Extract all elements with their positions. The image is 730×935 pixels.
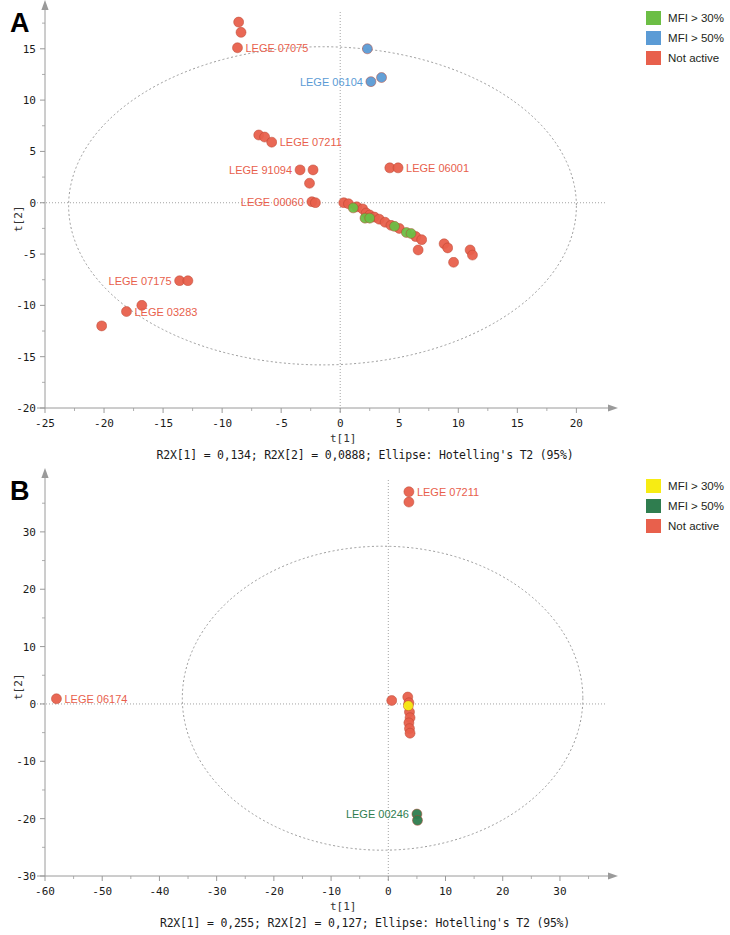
svg-text:15: 15 bbox=[511, 417, 524, 430]
svg-text:30: 30 bbox=[553, 885, 566, 898]
legend-label-mfi50: MFI > 50% bbox=[668, 499, 724, 513]
data-point bbox=[417, 235, 427, 245]
svg-text:0: 0 bbox=[337, 417, 344, 430]
svg-text:30: 30 bbox=[23, 526, 36, 539]
data-point bbox=[236, 27, 246, 37]
svg-text:0: 0 bbox=[29, 698, 36, 711]
data-point bbox=[365, 213, 375, 223]
svg-text:-25: -25 bbox=[35, 417, 55, 430]
svg-text:-15: -15 bbox=[16, 351, 36, 364]
panel-b-legend: MFI > 30% MFI > 50% Not active bbox=[646, 478, 724, 533]
point-label: LEGE 03283 bbox=[134, 306, 197, 318]
data-point bbox=[404, 497, 414, 507]
legend-label-mfi50: MFI > 50% bbox=[668, 31, 724, 45]
point-label: LEGE 06001 bbox=[406, 162, 469, 174]
point-label: LEGE 06174 bbox=[64, 693, 127, 705]
svg-text:5: 5 bbox=[396, 417, 403, 430]
legend-swatch-notactive bbox=[646, 519, 661, 533]
svg-text:20: 20 bbox=[496, 885, 509, 898]
svg-text:0: 0 bbox=[29, 197, 36, 210]
panel-a: A -25-20-15-10-505101520-20-15-10-505101… bbox=[0, 0, 730, 467]
panel-b-caption: R2X[1] = 0,255; R2X[2] = 0,127; Ellipse:… bbox=[0, 916, 730, 930]
data-point bbox=[362, 44, 372, 54]
legend-swatch-mfi30 bbox=[646, 479, 661, 493]
svg-text:-20: -20 bbox=[94, 417, 114, 430]
legend-swatch-mfi30 bbox=[646, 11, 661, 25]
svg-text:-20: -20 bbox=[16, 402, 36, 415]
data-point bbox=[97, 321, 107, 331]
svg-text:-5: -5 bbox=[275, 417, 288, 430]
data-point bbox=[404, 487, 414, 497]
svg-text:-10: -10 bbox=[16, 755, 36, 768]
svg-text:5: 5 bbox=[29, 145, 36, 158]
point-label: LEGE 07211 bbox=[280, 136, 342, 148]
svg-text:-10: -10 bbox=[16, 299, 36, 312]
figure-page: A -25-20-15-10-505101520-20-15-10-505101… bbox=[0, 0, 730, 935]
svg-text:-20: -20 bbox=[16, 813, 36, 826]
data-point bbox=[449, 257, 459, 267]
data-point bbox=[267, 137, 277, 147]
data-point bbox=[405, 728, 415, 738]
legend-label-mfi30: MFI > 30% bbox=[668, 11, 724, 25]
data-point bbox=[413, 245, 423, 255]
data-point bbox=[310, 198, 320, 208]
data-point bbox=[308, 165, 318, 175]
data-point bbox=[393, 163, 403, 173]
point-label: LEGE 00060 bbox=[241, 196, 304, 208]
svg-text:-20: -20 bbox=[264, 885, 284, 898]
data-point bbox=[406, 229, 416, 239]
svg-text:10: 10 bbox=[23, 94, 36, 107]
point-label: LEGE 07211 bbox=[417, 486, 479, 498]
legend-swatch-mfi50 bbox=[646, 31, 661, 45]
svg-text:10: 10 bbox=[439, 885, 452, 898]
panel-b-x-axis-label: t[1] bbox=[330, 900, 357, 913]
svg-text:-40: -40 bbox=[149, 885, 169, 898]
data-point bbox=[234, 17, 244, 27]
point-label: LEGE 00246 bbox=[346, 808, 409, 820]
data-point bbox=[403, 701, 413, 711]
data-point bbox=[443, 243, 453, 253]
data-point bbox=[377, 73, 387, 83]
svg-text:-5: -5 bbox=[23, 248, 36, 261]
data-point bbox=[412, 815, 422, 825]
panel-b: B -60-50-40-30-20-100102030-30-20-100102… bbox=[0, 468, 730, 935]
data-point bbox=[305, 178, 315, 188]
panel-b-scatter-plot: -60-50-40-30-20-100102030-30-20-10010203… bbox=[0, 468, 620, 908]
point-label: LEGE 91094 bbox=[229, 164, 292, 176]
legend-item: MFI > 50% bbox=[646, 30, 724, 45]
legend-label-notactive: Not active bbox=[668, 51, 719, 65]
legend-item: Not active bbox=[646, 518, 724, 533]
svg-text:10: 10 bbox=[23, 641, 36, 654]
data-point bbox=[348, 203, 358, 213]
legend-item: MFI > 30% bbox=[646, 478, 724, 493]
data-point bbox=[387, 696, 397, 706]
legend-item: MFI > 50% bbox=[646, 498, 724, 513]
svg-text:10: 10 bbox=[452, 417, 465, 430]
svg-text:15: 15 bbox=[23, 43, 36, 56]
legend-item: Not active bbox=[646, 50, 724, 65]
data-point bbox=[390, 221, 400, 231]
panel-a-caption: R2X[1] = 0,134; R2X[2] = 0,0888; Ellipse… bbox=[0, 448, 730, 462]
data-point bbox=[467, 250, 477, 260]
svg-text:-15: -15 bbox=[153, 417, 173, 430]
point-label: LEGE 07175 bbox=[109, 275, 172, 287]
svg-text:-10: -10 bbox=[321, 885, 341, 898]
legend-swatch-notactive bbox=[646, 51, 661, 65]
legend-item: MFI > 30% bbox=[646, 10, 724, 25]
point-label: LEGE 07075 bbox=[245, 42, 308, 54]
panel-a-legend: MFI > 30% MFI > 50% Not active bbox=[646, 10, 724, 65]
legend-label-mfi30: MFI > 30% bbox=[668, 479, 724, 493]
data-point bbox=[366, 77, 376, 87]
legend-label-notactive: Not active bbox=[668, 519, 719, 533]
panel-b-y-axis-label: t[2] bbox=[12, 674, 25, 701]
svg-text:-50: -50 bbox=[92, 885, 112, 898]
data-point bbox=[51, 694, 61, 704]
svg-text:-60: -60 bbox=[35, 885, 55, 898]
panel-a-y-axis-label: t[2] bbox=[12, 206, 25, 233]
svg-text:0: 0 bbox=[385, 885, 392, 898]
svg-text:-10: -10 bbox=[212, 417, 232, 430]
legend-swatch-mfi50 bbox=[646, 499, 661, 513]
point-label: LEGE 06104 bbox=[300, 76, 363, 88]
svg-text:-30: -30 bbox=[207, 885, 227, 898]
data-point bbox=[121, 307, 131, 317]
